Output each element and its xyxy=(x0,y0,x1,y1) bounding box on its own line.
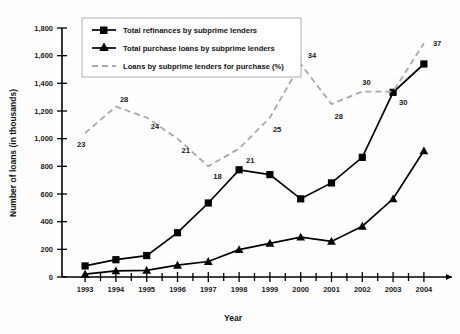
data-label-percent: 30 xyxy=(362,78,370,87)
x-tick-label: 1996 xyxy=(169,285,186,294)
x-tick-label: 2004 xyxy=(416,285,434,294)
x-tick-label: 1993 xyxy=(77,285,94,294)
x-axis-title: Year xyxy=(224,313,243,323)
square-marker xyxy=(143,252,150,259)
legend-label-purchase-percent: Loans by subprime lenders for purchase (… xyxy=(123,62,284,71)
square-marker-icon xyxy=(100,27,108,35)
y-tick-label: 600 xyxy=(40,190,53,199)
square-marker xyxy=(174,229,181,236)
x-tick-label: 1999 xyxy=(262,285,279,294)
square-marker xyxy=(205,199,212,206)
y-axis-title: Number of loans (in thousands) xyxy=(8,89,18,217)
square-marker xyxy=(82,262,89,269)
x-tick-label: 2001 xyxy=(323,285,340,294)
y-tick-label: 1,800 xyxy=(34,24,53,33)
line-chart: 02004006008001,0001,2001,4001,6001,800 1… xyxy=(0,0,460,334)
x-tick-label: 2000 xyxy=(292,285,309,294)
x-tick-label: 1995 xyxy=(138,285,155,294)
legend-label-refinances: Total refinances by subprime lenders xyxy=(123,26,257,35)
data-label-percent: 28 xyxy=(335,112,343,121)
square-marker xyxy=(359,154,366,161)
data-label-percent: 24 xyxy=(151,122,160,131)
square-marker xyxy=(297,195,304,202)
data-label-percent: 37 xyxy=(433,39,441,48)
data-label-percent: 28 xyxy=(120,95,128,104)
x-tick-label: 1997 xyxy=(200,285,217,294)
data-label-percent: 23 xyxy=(77,140,85,149)
x-tick-label: 1998 xyxy=(231,285,248,294)
y-tick-label: 1,000 xyxy=(34,134,53,143)
x-tick-label: 2002 xyxy=(354,285,371,294)
square-marker xyxy=(236,166,243,173)
data-label-percent: 25 xyxy=(273,125,282,134)
data-label-percent: 18 xyxy=(213,172,221,181)
data-label-percent: 21 xyxy=(182,146,191,155)
square-marker xyxy=(112,256,119,263)
square-marker xyxy=(266,171,273,178)
y-tick-label: 400 xyxy=(40,217,53,226)
square-marker xyxy=(420,60,427,67)
chart-legend: Total refinances by subprime lenders Tot… xyxy=(82,18,301,77)
y-tick-label: 1,400 xyxy=(34,79,53,88)
square-marker xyxy=(328,179,335,186)
y-tick-label: 1,600 xyxy=(34,51,53,60)
y-tick-label: 1,200 xyxy=(34,107,53,116)
y-tick-label: 0 xyxy=(49,273,53,282)
data-label-percent: 21 xyxy=(246,156,255,165)
y-tick-label: 800 xyxy=(40,162,53,171)
legend-label-purchase-loans: Total purchase loans by subprime lenders xyxy=(123,44,275,53)
chart-container: 02004006008001,0001,2001,4001,6001,800 1… xyxy=(0,0,460,334)
x-tick-label: 1994 xyxy=(108,285,126,294)
data-label-percent: 34 xyxy=(308,51,317,60)
y-tick-label: 200 xyxy=(40,245,53,254)
x-tick-label: 2003 xyxy=(385,285,402,294)
data-label-percent: 30 xyxy=(399,98,407,107)
